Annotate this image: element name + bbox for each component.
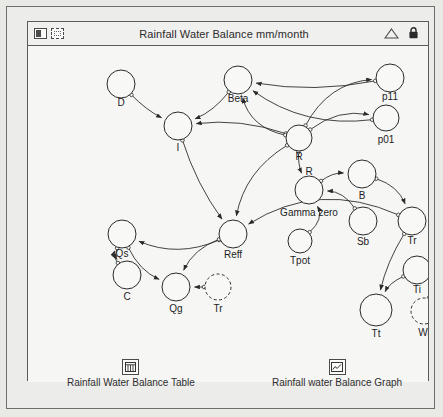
application-window: Rainfall Water Balance mm/month [6, 6, 435, 409]
node-p11[interactable] [376, 64, 404, 92]
node-p01[interactable] [373, 105, 399, 131]
link-I-to-Reff [183, 140, 223, 219]
node-label-Tr_ghost: Tr [213, 303, 222, 314]
node-label-Ti: Ti [413, 284, 421, 295]
node-label-C: C [123, 291, 130, 302]
title-bar-left-icons [28, 28, 64, 39]
link-p01-to-Beta [253, 91, 372, 121]
model-layer-icon[interactable] [34, 28, 47, 39]
link-B-to-Tr_right [376, 179, 405, 204]
node-label-Reff: Reff [224, 249, 242, 260]
node-layer [107, 64, 428, 326]
node-label-R_top: R [295, 151, 302, 162]
link-Beta-to-I [195, 92, 229, 119]
node-label-Tr_right: Tr [407, 235, 416, 246]
launcher-strip: Rainfall Water Balance Table Rainfall wa… [27, 381, 429, 416]
node-label-D: D [117, 97, 124, 108]
link-Ti-to-Tt [385, 276, 403, 291]
node-Qg[interactable] [162, 273, 190, 301]
node-C[interactable] [113, 261, 141, 289]
node-Qs[interactable] [108, 220, 136, 248]
link-R_top-to-Reff [236, 145, 287, 216]
node-R_top[interactable] [286, 125, 312, 151]
node-Tr_right[interactable] [398, 207, 426, 235]
node-Reff[interactable] [219, 220, 247, 248]
interface-layer-icon[interactable] [51, 28, 64, 39]
node-R_mid[interactable] [295, 176, 323, 204]
node-label-R_mid: R [305, 166, 312, 177]
node-label-B: B [359, 190, 366, 201]
document-title: Rainfall Water Balance mm/month [64, 28, 384, 40]
node-label-Qs: Qs [116, 248, 129, 259]
launcher-graph-label: Rainfall water Balance Graph [272, 377, 402, 388]
node-label-Beta: Beta [228, 93, 249, 104]
node-D[interactable] [107, 70, 135, 98]
lock-icon[interactable] [408, 25, 419, 43]
link-R_mid-to-B [321, 173, 344, 181]
graph-icon [329, 359, 346, 375]
link-D-to-I [131, 95, 161, 118]
node-Tpot[interactable] [288, 229, 312, 253]
table-icon [122, 359, 139, 375]
node-label-p11: p11 [382, 91, 398, 102]
node-B[interactable] [348, 160, 376, 188]
link-R_top-to-I [196, 122, 285, 133]
node-label-GammaZero: Gamma zero [280, 207, 338, 218]
node-Beta[interactable] [224, 66, 252, 94]
node-label-Wi: Wi [418, 327, 428, 338]
node-label-Tpot: Tpot [290, 255, 310, 266]
link-Tr_right-to-Tt [381, 234, 405, 290]
model-diagram-canvas[interactable]: DBetap11p01IRRGamma zeroBSbTrTpotReffQsC… [28, 46, 428, 382]
node-Tr_ghost[interactable] [205, 274, 231, 300]
model-document-panel: Rainfall Water Balance mm/month [27, 21, 429, 381]
triangle-expand-icon[interactable] [384, 25, 399, 43]
link-R_top-to-Beta [243, 98, 286, 135]
node-label-Sb: Sb [357, 236, 369, 247]
launcher-table-label: Rainfall Water Balance Table [67, 377, 195, 388]
node-I[interactable] [164, 112, 192, 140]
document-title-bar: Rainfall Water Balance mm/month [28, 22, 428, 46]
node-label-Qg: Qg [169, 303, 182, 314]
node-Tt[interactable] [360, 294, 392, 326]
launcher-rainfall-water-balance-graph[interactable]: Rainfall water Balance Graph [272, 359, 402, 388]
node-label-I: I [177, 142, 180, 153]
link-Reff-to-Qg [184, 239, 219, 270]
title-bar-right-icons [384, 25, 428, 43]
node-label-p01: p01 [378, 134, 395, 145]
node-Wi[interactable] [411, 298, 428, 324]
node-Sb[interactable] [349, 207, 377, 235]
node-label-Tt: Tt [372, 328, 381, 339]
node-Ti[interactable] [403, 256, 428, 284]
launcher-rainfall-water-balance-table[interactable]: Rainfall Water Balance Table [67, 359, 195, 388]
